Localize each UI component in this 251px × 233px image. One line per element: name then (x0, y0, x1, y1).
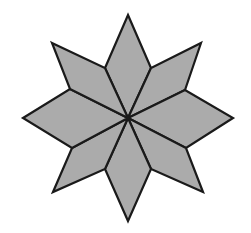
figure-canvas: Eight-pointed star An eight-pointed star… (0, 0, 251, 233)
eight-pointed-star-graphic: Eight-pointed star An eight-pointed star… (0, 0, 251, 233)
